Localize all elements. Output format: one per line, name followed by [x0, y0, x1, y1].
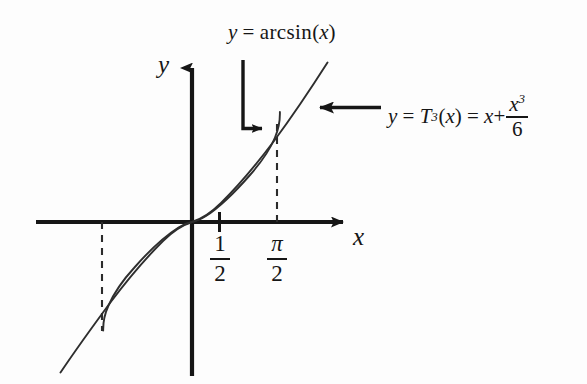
taylor-label-first-term: x	[484, 106, 493, 127]
taylor-label-lhs: y	[388, 106, 397, 127]
tick-one-half-bar	[210, 258, 230, 260]
reference-line-group	[102, 118, 277, 331]
taylor-fraction-numerator: x3	[506, 92, 528, 115]
arcsin-label-function: arcsin	[260, 20, 313, 44]
arcsin-arrow-elbow-path	[243, 60, 262, 129]
tick-pi-over-two-numerator: π	[264, 232, 290, 256]
curve-label-arcsin: y = arcsin(x)	[228, 22, 336, 43]
taylor-label-fraction: x36	[506, 92, 528, 141]
taylor-fraction-numerator-base: x	[509, 92, 518, 116]
arcsin-label-paren-close: )	[329, 20, 336, 44]
taylor-label-plus: +	[493, 106, 505, 127]
arcsin-label-argument: x	[319, 20, 328, 44]
arcsin-label-equals: =	[243, 20, 255, 44]
tick-one-half-numerator: 1	[208, 232, 232, 256]
y-axis-label: y	[158, 52, 169, 77]
taylor-label-T: T	[420, 106, 432, 127]
x-tick-label-one-half: 1 2	[208, 232, 232, 287]
taylor-label-equals-1: =	[403, 106, 415, 127]
taylor-label-argument: x	[445, 106, 454, 127]
tick-one-half-denominator: 2	[208, 262, 232, 286]
taylor-fraction-numerator-exponent: 3	[519, 91, 526, 106]
tick-pi-over-two-bar	[267, 258, 287, 260]
annotation-arrow-arcsin	[243, 60, 262, 129]
tick-pi-over-two-denominator: 2	[264, 262, 290, 286]
x-tick-label-pi-over-two: π 2	[264, 232, 290, 287]
figure-root: y = arcsin(x) y x y = T3(x) = x+x36 1 2 …	[0, 0, 587, 384]
taylor-label-equals-2: =	[467, 106, 479, 127]
curve-label-taylor: y = T3(x) = x+x36	[388, 92, 529, 141]
taylor-label-paren-close: )	[455, 106, 462, 127]
x-axis-label: x	[353, 224, 364, 249]
plot-canvas	[0, 0, 587, 384]
taylor-fraction-denominator: 6	[509, 119, 526, 140]
arcsin-label-lhs: y	[228, 20, 237, 44]
taylor-label-T-subscript: 3	[431, 110, 438, 123]
